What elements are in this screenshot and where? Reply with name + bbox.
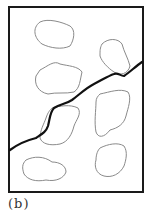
diagram-figure bbox=[0, 0, 151, 222]
figure-caption: (b) bbox=[8, 196, 29, 211]
specimen-frame bbox=[9, 7, 143, 192]
